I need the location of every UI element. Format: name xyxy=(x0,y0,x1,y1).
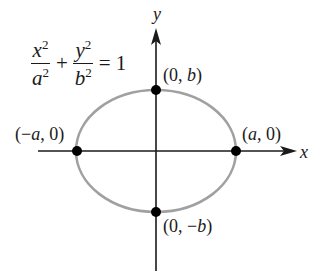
plus-sign: + xyxy=(56,51,68,76)
y-axis-label: y xyxy=(153,5,161,23)
equals-sign: = xyxy=(99,51,111,76)
label-left-vertex: (−a, 0) xyxy=(15,125,64,143)
label-right-vertex: (a, 0) xyxy=(242,125,281,143)
point-right-vertex xyxy=(231,146,241,156)
point-top-vertex xyxy=(151,85,161,95)
point-left-vertex xyxy=(72,146,82,156)
equation-rhs: 1 xyxy=(116,51,127,76)
fraction-x-over-a: x2 a2 xyxy=(30,38,51,89)
ellipse-equation: x2 a2 + y2 b2 = 1 xyxy=(30,38,126,89)
label-top-vertex: (0, b) xyxy=(163,66,202,84)
label-bottom-vertex: (0, −b) xyxy=(163,217,212,235)
x-axis-label: x xyxy=(300,143,308,161)
point-bottom-vertex xyxy=(151,207,161,217)
fraction-y-over-b: y2 b2 xyxy=(73,38,94,89)
